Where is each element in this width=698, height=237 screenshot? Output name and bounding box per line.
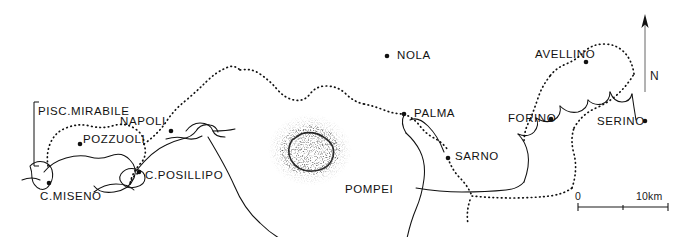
place-label-palma: PALMA [414,108,455,120]
place-dot-palma [402,112,407,117]
place-label-avellino: AVELLINO [535,49,595,61]
place-label-serino: SERINO [597,116,645,128]
map-figure: PISC.MIRABILENAPOLIPOZZUOLIC.POSILLIPOC.… [0,0,698,237]
scale-bar [578,203,668,211]
place-dot-napoli [169,129,174,134]
place-label-c-posillipo: C.POSILLIPO [145,170,223,182]
north-arrow-icon [641,14,648,92]
north-label: N [650,70,659,82]
place-dot-sarno [446,156,451,161]
place-label-pompei: POMPEI [345,184,393,196]
place-label-c-miseno: C.MISENO [40,191,102,203]
place-dot-c-miseno [47,181,52,186]
place-label-forino: FORINO [508,113,556,125]
place-dot-pozzuoli [78,142,83,147]
place-dot-c-posillipo [137,170,142,175]
place-label-nola: NOLA [397,50,431,62]
place-label-sarno: SARNO [455,151,499,163]
place-label-napoli: NAPOLI [120,116,166,128]
scale-start-label: 0 [575,191,581,202]
scale-end-label: 10km [636,191,662,202]
place-dot-nola [385,54,390,59]
place-label-pozzuoli: POZZUOLI [83,134,145,146]
place-label-pisc-mirabile: PISC.MIRABILE [38,106,130,118]
map-canvas [0,0,698,237]
vesuvius-crater [268,114,352,186]
